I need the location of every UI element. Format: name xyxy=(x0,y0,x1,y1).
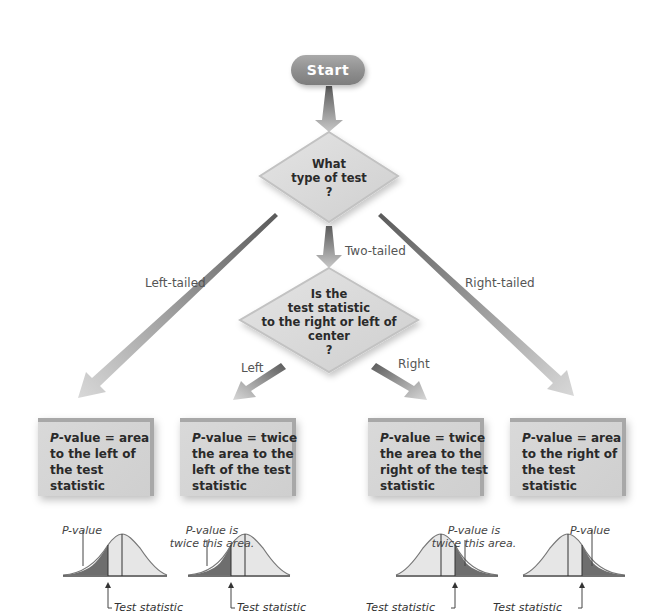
result-left-tailed: P-value = area to the left of the test s… xyxy=(38,418,154,496)
curve3-annotation: P-value is twice this area. xyxy=(424,524,524,550)
decision1-line: type of test xyxy=(279,171,379,185)
label-left-tailed: Left-tailed xyxy=(145,276,206,290)
curve-right-tailed xyxy=(523,530,625,608)
curve2-test-statistic-label: Test statistic xyxy=(237,601,306,612)
decision-side-text: Is the test statistic to the right or le… xyxy=(254,287,404,357)
curve4-test-statistic-label: Test statistic xyxy=(493,601,562,612)
label-right-tailed: Right-tailed xyxy=(465,276,535,290)
curve2-annotation: P-value is twice this area. xyxy=(162,524,262,550)
curve-left-tailed xyxy=(63,530,167,608)
decision2-line: test statistic xyxy=(254,301,404,315)
arrow-two-tailed xyxy=(316,226,342,268)
decision2-line: ? xyxy=(254,343,404,357)
curve1-annotation: P-value xyxy=(62,524,102,537)
curve3-test-statistic-label: Test statistic xyxy=(366,601,435,612)
label-right: Right xyxy=(398,357,430,371)
decision2-line: center xyxy=(254,329,404,343)
result-right-tailed: P-value = area to the right of the test … xyxy=(510,418,626,496)
label-two-tailed: Two-tailed xyxy=(345,244,406,258)
arrow-start-to-decision xyxy=(315,86,343,132)
start-terminal: Start xyxy=(291,55,365,85)
decision1-line: What xyxy=(279,157,379,171)
decision2-line: Is the xyxy=(254,287,404,301)
decision1-line: ? xyxy=(279,185,379,199)
decision-test-type-text: What type of test ? xyxy=(279,157,379,199)
curve4-annotation: P-value xyxy=(570,524,610,537)
result-two-tailed-right: P-value = twice the area to the right of… xyxy=(368,418,484,496)
decision2-line: to the right or left of xyxy=(254,315,404,329)
curve1-test-statistic-label: Test statistic xyxy=(114,601,183,612)
label-left: Left xyxy=(241,361,264,375)
start-label: Start xyxy=(307,62,349,78)
result-two-tailed-left: P-value = twice the area to the left of … xyxy=(180,418,296,496)
